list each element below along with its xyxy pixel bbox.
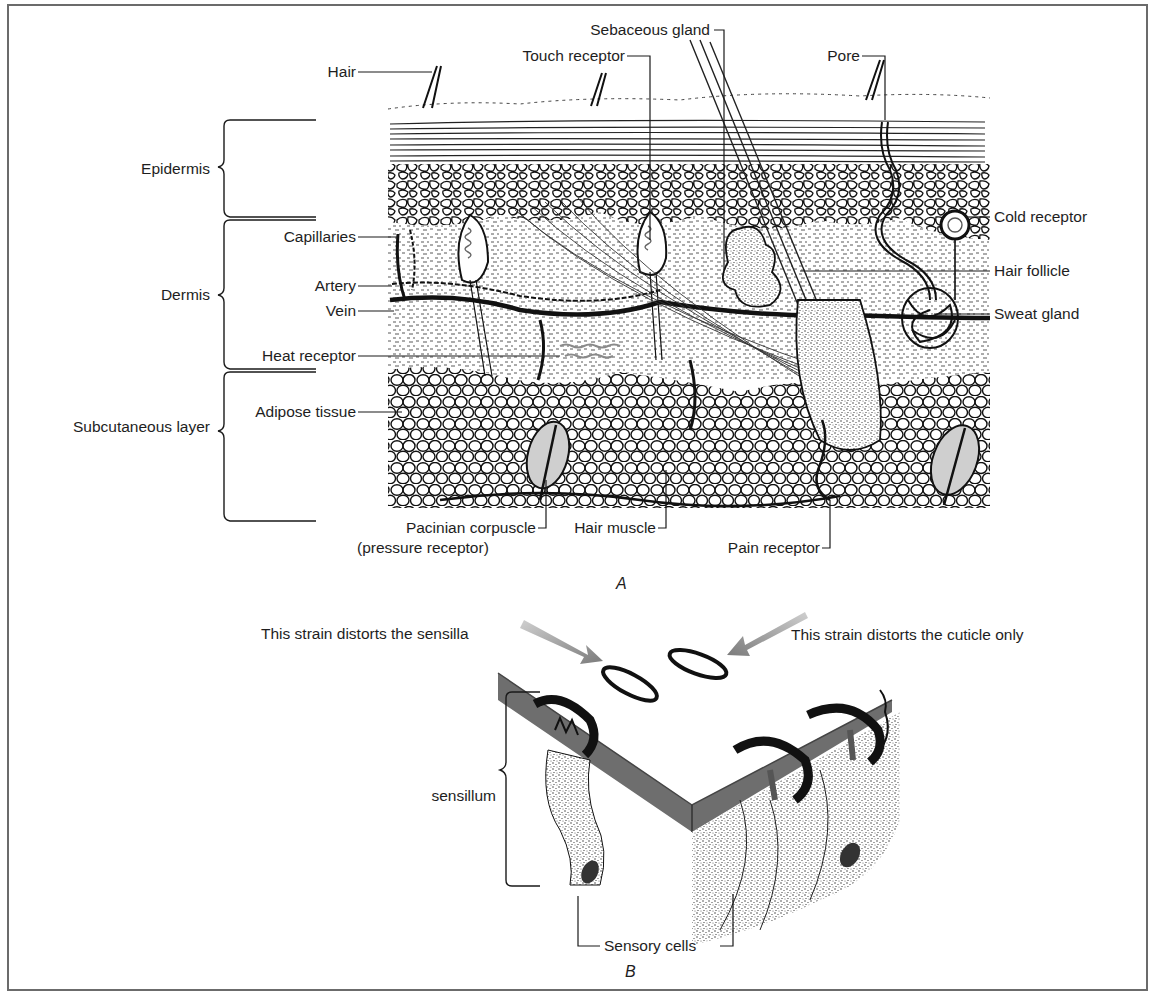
label-strain-cuticle: This strain distorts the cuticle only [791, 626, 1024, 644]
label-heat-receptor: Heat receptor [200, 347, 356, 365]
label-sweat-gland: Sweat gland [994, 305, 1079, 323]
skin-and-sensilla-illustration [0, 0, 1155, 1001]
label-artery: Artery [200, 277, 356, 295]
layer-braces [218, 120, 316, 521]
label-strain-sensilla: This strain distorts the sensilla [261, 625, 469, 643]
label-pacinian-corpuscle: Pacinian corpuscle [340, 519, 536, 537]
label-sensillum: sensillum [380, 787, 496, 805]
label-cold-receptor: Cold receptor [994, 208, 1087, 226]
label-vein: Vein [200, 302, 356, 320]
label-adipose-tissue: Adipose tissue [200, 403, 356, 421]
label-hair-follicle: Hair follicle [994, 262, 1070, 280]
caption-panel-a: A [616, 575, 627, 593]
label-pain-receptor: Pain receptor [680, 539, 820, 557]
label-sebaceous-gland: Sebaceous gland [500, 21, 710, 39]
label-capillaries: Capillaries [200, 228, 356, 246]
label-hair-muscle: Hair muscle [540, 519, 656, 537]
label-pressure-receptor: (pressure receptor) [357, 539, 489, 557]
caption-panel-b: B [625, 963, 636, 981]
layer-subcutaneous: Subcutaneous layer [10, 418, 210, 436]
layer-epidermis: Epidermis [60, 160, 210, 178]
layer-dermis: Dermis [60, 286, 210, 304]
label-sensory-cells: Sensory cells [604, 937, 696, 955]
label-touch-receptor: Touch receptor [440, 47, 625, 65]
skin-cross-section [388, 40, 990, 508]
label-hair: Hair [240, 63, 356, 81]
label-pore: Pore [760, 47, 860, 65]
sensilla-diagram [498, 612, 900, 946]
